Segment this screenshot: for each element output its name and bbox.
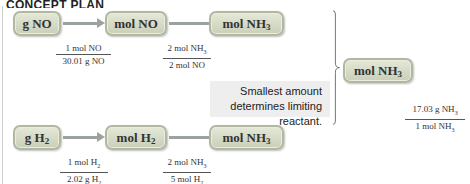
box-mol-nh3-final: mol NH3 xyxy=(343,58,413,83)
box-mol-nh3-top: mol NH3 xyxy=(209,11,284,36)
box-mol-nh3-bottom: mol NH3 xyxy=(209,125,284,150)
box-mol-h2: mol H2 xyxy=(105,125,167,150)
conversion-h2-ratio: 2 mol NH35 mol H2 xyxy=(163,156,211,184)
arrow-molno-molnh3 xyxy=(169,22,212,25)
arrow-molh2-molnh3 xyxy=(169,136,212,139)
diagram-title: CONCEPT PLAN xyxy=(6,0,104,8)
conversion-nh3-molar-mass: 17.03 g NH31 mol NH3 xyxy=(405,103,465,136)
box-g-h2: g H2 xyxy=(13,125,61,150)
brace-icon xyxy=(332,10,342,154)
box-g-no: g NO xyxy=(13,11,61,36)
conversion-h2-molar-mass: 1 mol H22.02 g H2 xyxy=(60,156,108,184)
limiting-reactant-note: Smallest amount determines limiting reac… xyxy=(210,81,330,117)
arrow-gh2-molh2 xyxy=(63,136,98,139)
conversion-no-molar-mass: 1 mol NO30.01 g NO xyxy=(56,42,111,67)
box-mol-no: mol NO xyxy=(105,11,167,36)
arrow-gno-molno xyxy=(63,22,98,25)
conversion-no-ratio: 2 mol NH32 mol NO xyxy=(163,42,211,71)
